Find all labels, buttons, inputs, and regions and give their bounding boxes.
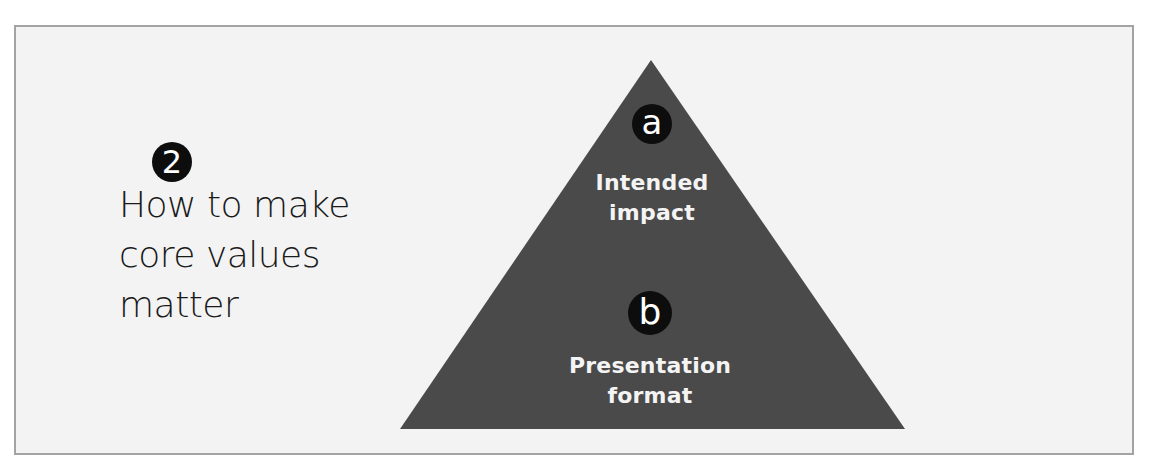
level-b-marker-badge: b: [628, 291, 672, 335]
level-b-marker: b: [639, 294, 662, 330]
level-b-label: Presentation format: [530, 351, 770, 411]
level-b-label-line-2: format: [530, 381, 770, 411]
level-a-marker: a: [642, 105, 663, 139]
level-a-marker-badge: a: [632, 104, 672, 144]
level-a-label-line-2: impact: [552, 198, 752, 228]
level-a-label-line-1: Intended: [552, 168, 752, 198]
level-a-label: Intended impact: [552, 168, 752, 228]
level-b-label-line-1: Presentation: [530, 351, 770, 381]
